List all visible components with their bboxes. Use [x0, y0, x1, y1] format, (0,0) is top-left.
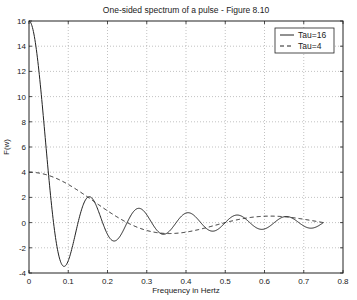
- y-tick-label: 16: [17, 17, 26, 26]
- x-tick-label: 0.8: [337, 277, 349, 286]
- y-tick-label: 0: [22, 219, 27, 228]
- x-tick-label: 0.7: [298, 277, 310, 286]
- x-tick-label: 0.4: [180, 277, 192, 286]
- y-tick-label: 6: [22, 143, 27, 152]
- series-tau4-line: [29, 172, 323, 233]
- data-curves: [29, 21, 323, 266]
- y-tick-label: -4: [19, 269, 27, 278]
- y-tick-label: 4: [22, 168, 27, 177]
- legend-label-tau4: Tau=4: [298, 41, 322, 51]
- x-tick-label: 0.3: [141, 277, 153, 286]
- y-tick-label: -2: [19, 244, 27, 253]
- y-tick-label: 2: [22, 193, 27, 202]
- y-tick-label: 12: [17, 67, 26, 76]
- y-tick-label: 10: [17, 93, 26, 102]
- legend-label-tau16: Tau=16: [298, 30, 326, 40]
- x-tick-label: 0.5: [220, 277, 232, 286]
- x-tick-label: 0.6: [259, 277, 271, 286]
- x-axis-label: Frequency in Hertz: [152, 286, 220, 295]
- y-tick-label: 14: [17, 42, 26, 51]
- axis-ticks: 00.10.20.30.40.50.60.70.8-4-202468101214…: [17, 17, 349, 286]
- chart: One-sided spectrum of a pulse - Figure 8…: [0, 0, 357, 300]
- y-tick-label: 8: [22, 118, 27, 127]
- chart-title: One-sided spectrum of a pulse - Figure 8…: [103, 5, 270, 15]
- series-tau16-line: [29, 21, 323, 266]
- grid-lines: [29, 21, 343, 273]
- x-tick-label: 0.2: [102, 277, 114, 286]
- y-axis-label: F(w): [2, 139, 11, 155]
- x-tick-label: 0: [27, 277, 32, 286]
- legend: Tau=16 Tau=4: [275, 28, 334, 53]
- x-tick-label: 0.1: [63, 277, 75, 286]
